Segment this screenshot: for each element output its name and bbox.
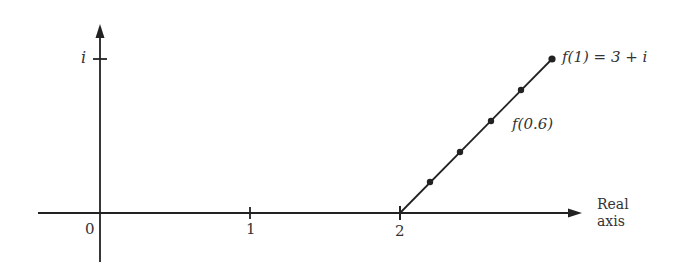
imaginary-axis (93, 24, 107, 262)
x-tick-label-1: 1 (246, 222, 256, 237)
point-t-0.2 (427, 179, 433, 185)
annotation-f06: f(0.6) (512, 117, 553, 132)
complex-plane-figure (0, 0, 685, 273)
point-t-0.6 (488, 118, 494, 124)
point-t-1 (548, 55, 555, 62)
annotation-f1: f(1) = 3 + i (562, 50, 647, 65)
x-tick-label-2: 2 (395, 224, 405, 239)
real-axis (38, 206, 582, 220)
real-axis-label-line1: Real (597, 197, 629, 211)
point-t-0.4 (457, 149, 463, 155)
x-tick-label-0: 0 (85, 222, 95, 237)
real-axis-label-line2: axis (597, 214, 625, 228)
point-t-0.8 (518, 87, 524, 93)
path-segment (400, 55, 556, 213)
y-axis-arrowhead-icon (96, 24, 105, 38)
x-axis-arrowhead-icon (568, 209, 582, 218)
y-tick-label-i: i (81, 50, 86, 66)
